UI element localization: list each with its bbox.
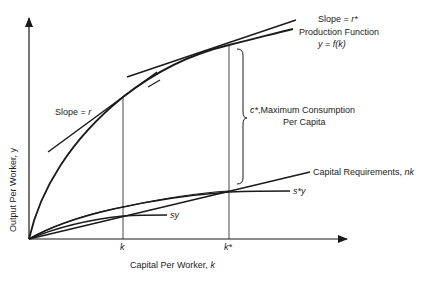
production-function-equation: y = f(k) [318,40,346,49]
c-star-label-line2: Per Capita [283,118,326,127]
diagram-canvas [0,0,431,281]
c-star-brace [237,49,247,184]
capital-requirements-text: Capital Requirements, [313,167,405,177]
capital-requirements-line [29,172,310,239]
slope-r-star-label: Slope = r* [318,15,358,24]
x-axis-label: Capital Per Worker, k [130,261,215,270]
s-star-y-label: s*y [293,187,306,196]
capital-requirements-label: Capital Requirements, nk [313,168,414,177]
slope-r-star-var: r* [351,14,358,24]
slope-r-star-text: Slope = [318,14,351,24]
c-star-label: c*,Maximum Consumption [250,106,355,115]
production-function-label: Production Function [299,28,379,37]
slope-r-var: r [88,107,91,117]
y-axis-label-text: Output Per Worker, y [8,148,18,232]
y-axis-label: Output Per Worker, y [8,148,18,232]
tick-k: k [120,243,125,252]
x-axis-label-text: Capital Per Worker, [130,260,210,270]
x-axis-label-var: k [210,260,215,270]
slope-r-text: Slope = [55,107,88,117]
tangent-parallel-segment [148,80,160,87]
tick-k-star: k* [224,243,232,252]
c-star-text: ,Maximum Consumption [258,105,355,115]
c-star-var: c* [250,105,258,115]
sy-curve [29,215,167,239]
tangent-slope-r-star [127,20,296,77]
sy-label: sy [170,211,179,220]
capital-requirements-var: nk [405,167,415,177]
slope-r-label: Slope = r [55,108,91,117]
